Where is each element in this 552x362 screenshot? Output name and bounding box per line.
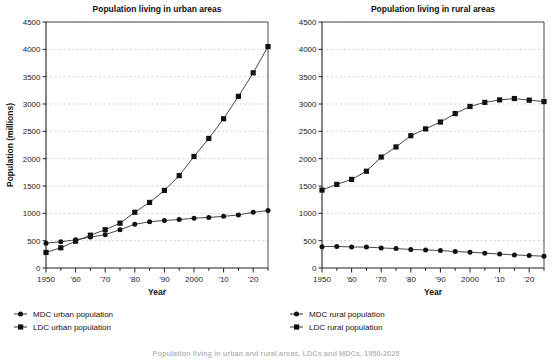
x-axis-label: Year: [424, 287, 443, 297]
data-point: [118, 227, 123, 232]
series-line-0: [46, 211, 268, 244]
x-tick-label: '70: [376, 275, 387, 284]
data-point: [542, 254, 547, 259]
data-point: [162, 188, 167, 193]
x-tick-label: '70: [100, 275, 111, 284]
x-tick-label: 2000: [185, 275, 203, 284]
y-tick-label: 1500: [23, 182, 41, 191]
chart-title: Population living in rural areas: [371, 4, 495, 14]
data-point: [221, 116, 226, 121]
data-point: [236, 212, 241, 217]
y-tick-label: 500: [303, 237, 317, 246]
data-point: [44, 241, 49, 246]
data-point: [482, 251, 487, 256]
data-point: [320, 244, 325, 249]
x-tick-label: '60: [346, 275, 357, 284]
data-point: [453, 249, 458, 254]
y-tick-label: 2000: [23, 155, 41, 164]
data-point: [251, 70, 256, 75]
data-point: [58, 245, 63, 250]
data-point: [132, 210, 137, 215]
legend-label: LDC rural population: [309, 323, 382, 332]
x-tick-label: 1950: [37, 275, 55, 284]
data-point: [408, 247, 413, 252]
data-point: [177, 173, 182, 178]
data-point: [266, 208, 271, 213]
y-tick-label: 1000: [299, 209, 317, 218]
data-point: [43, 250, 48, 255]
data-point: [162, 218, 167, 223]
data-point: [334, 182, 339, 187]
legend-label: LDC urban population: [33, 323, 111, 332]
data-point: [423, 247, 428, 252]
x-tick-label: '60: [70, 275, 81, 284]
figure-container: Population living in urban areas05001000…: [0, 0, 552, 362]
data-point: [117, 221, 122, 226]
legend-marker: [18, 324, 23, 329]
data-point: [349, 244, 354, 249]
data-point: [132, 222, 137, 227]
y-tick-label: 500: [27, 237, 41, 246]
x-tick-label: '80: [406, 275, 417, 284]
y-tick-label: 4500: [299, 18, 317, 27]
data-point: [423, 126, 428, 131]
data-point: [512, 96, 517, 101]
data-point: [379, 245, 384, 250]
x-tick-label: '90: [159, 275, 170, 284]
data-point: [438, 119, 443, 124]
x-tick-label: 1950: [313, 275, 331, 284]
series-line-0: [322, 246, 544, 256]
figure-caption: Population living in urban and rural are…: [0, 349, 552, 358]
data-point: [527, 253, 532, 258]
data-point: [408, 133, 413, 138]
legend-marker: [294, 312, 299, 317]
data-point: [379, 154, 384, 159]
data-point: [467, 104, 472, 109]
x-tick-label: '80: [130, 275, 141, 284]
y-tick-label: 0: [36, 264, 41, 273]
legend-marker: [18, 312, 23, 317]
x-axis-label: Year: [148, 287, 167, 297]
data-point: [88, 233, 93, 238]
urban-areas-chart: Population living in urban areas05001000…: [0, 0, 276, 345]
chart-panel-rural: Population living in rural areas05001000…: [276, 0, 552, 345]
y-tick-label: 2500: [299, 127, 317, 136]
data-point: [58, 239, 63, 244]
legend-marker: [294, 324, 299, 329]
x-tick-label: 2000: [461, 275, 479, 284]
data-point: [497, 252, 502, 257]
x-tick-label: '20: [524, 275, 535, 284]
y-tick-label: 4500: [23, 18, 41, 27]
data-point: [349, 177, 354, 182]
data-point: [73, 239, 78, 244]
data-point: [192, 216, 197, 221]
data-point: [527, 98, 532, 103]
rural-areas-chart: Population living in rural areas05001000…: [276, 0, 552, 345]
y-tick-label: 3500: [23, 73, 41, 82]
data-point: [221, 214, 226, 219]
data-point: [364, 169, 369, 174]
data-point: [147, 219, 152, 224]
y-tick-label: 4000: [23, 45, 41, 54]
y-tick-label: 3000: [299, 100, 317, 109]
x-tick-label: '90: [435, 275, 446, 284]
data-point: [177, 217, 182, 222]
y-tick-label: 3500: [299, 73, 317, 82]
y-tick-label: 0: [312, 264, 317, 273]
data-point: [103, 232, 108, 237]
data-point: [206, 136, 211, 141]
data-point: [453, 111, 458, 116]
legend-label: MDC rural population: [309, 310, 385, 319]
data-point: [206, 215, 211, 220]
y-tick-label: 2000: [299, 155, 317, 164]
y-tick-label: 2500: [23, 127, 41, 136]
data-point: [497, 97, 502, 102]
data-point: [236, 94, 241, 99]
data-point: [251, 210, 256, 215]
data-point: [319, 188, 324, 193]
data-point: [147, 200, 152, 205]
data-point: [191, 154, 196, 159]
y-tick-label: 4000: [299, 45, 317, 54]
data-point: [482, 100, 487, 105]
x-tick-label: '10: [494, 275, 505, 284]
